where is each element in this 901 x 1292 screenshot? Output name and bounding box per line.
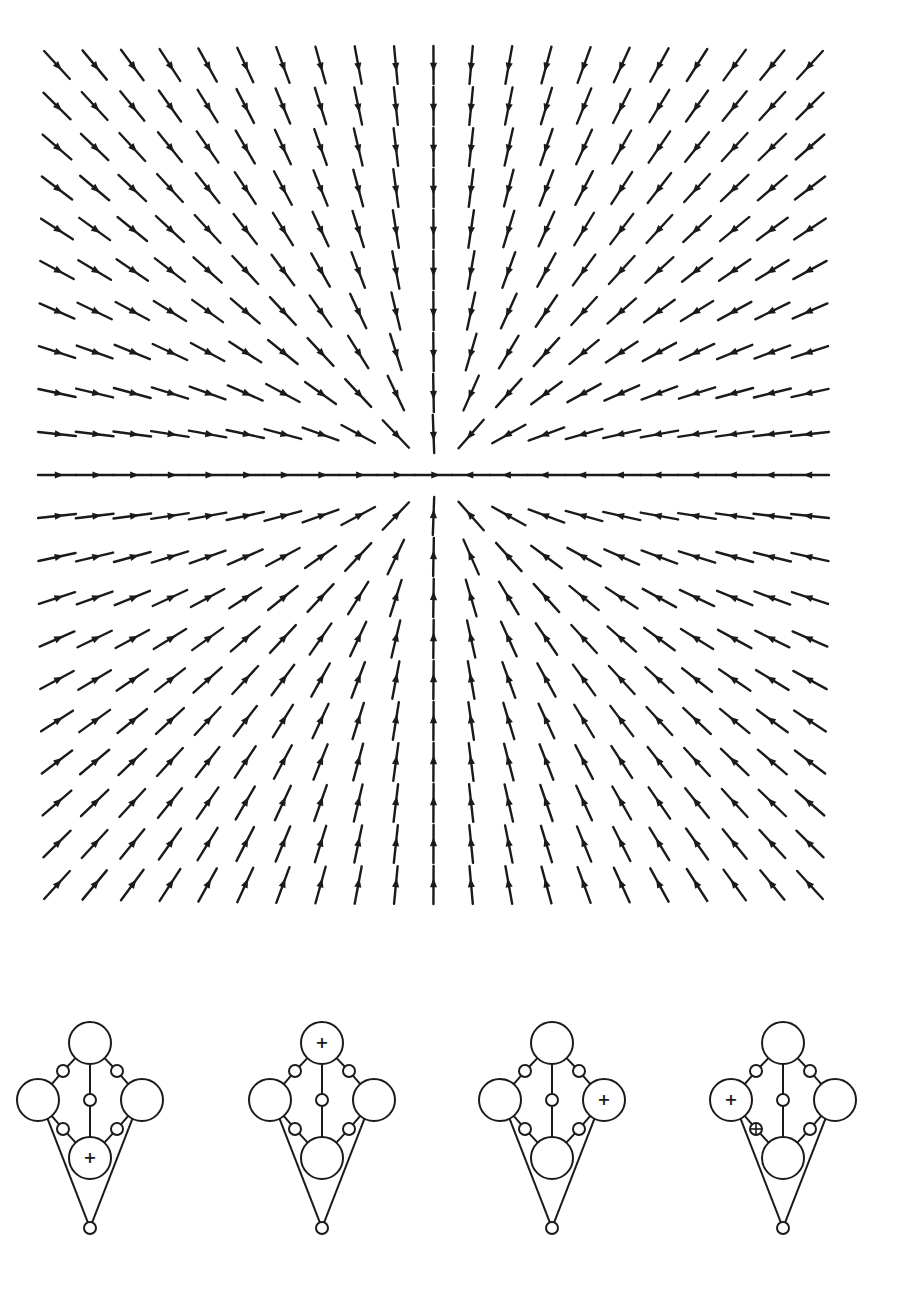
field-arrow: [574, 705, 594, 737]
arrowhead-icon: [354, 592, 362, 602]
node-center: [316, 1094, 328, 1106]
field-arrow: [759, 790, 786, 816]
field-arrow: [757, 710, 788, 732]
edge-line: [567, 1058, 575, 1067]
arrowhead-icon: [578, 389, 588, 396]
field-arrow: [116, 302, 149, 320]
field-arrow: [577, 88, 591, 123]
arrowhead-icon: [91, 595, 101, 602]
arrowhead-icon: [582, 838, 589, 848]
node-lower-right: [111, 1123, 123, 1135]
field-arrow: [43, 791, 72, 816]
field-arrow: [120, 829, 144, 858]
field-arrow: [576, 786, 592, 821]
field-arrow: [505, 866, 512, 903]
arrowhead-icon: [279, 184, 286, 194]
node-top: [531, 1022, 573, 1064]
arrowhead-icon: [581, 184, 588, 194]
field-arrow: [641, 513, 678, 520]
field-arrow: [113, 471, 151, 478]
field-arrow: [266, 548, 299, 566]
arrowhead-icon: [804, 266, 814, 273]
node-left: [249, 1079, 291, 1121]
field-arrow: [76, 471, 114, 478]
field-arrow: [650, 90, 670, 122]
field-arrow: [796, 831, 823, 858]
field-arrow: [678, 471, 716, 478]
field-arrow: [353, 211, 364, 247]
field-arrow: [352, 252, 365, 288]
arrowhead-icon: [91, 636, 101, 643]
field-arrow: [117, 259, 148, 280]
field-arrow: [760, 870, 784, 899]
node-upper-right: [111, 1065, 123, 1077]
arrowhead-icon: [54, 307, 64, 314]
field-arrow: [534, 584, 560, 612]
arrowhead-icon: [243, 471, 252, 478]
field-arrow: [156, 216, 184, 242]
field-arrow: [430, 128, 437, 166]
field-arrow: [275, 130, 291, 164]
arrowhead-icon: [279, 715, 287, 725]
field-arrow: [647, 215, 673, 243]
field-arrow: [684, 748, 710, 776]
field-arrow: [793, 303, 828, 318]
field-arrow: [44, 51, 70, 79]
field-arrow: [310, 295, 332, 326]
field-arrow: [496, 543, 521, 571]
field-arrow: [78, 260, 111, 280]
field-arrow: [571, 297, 597, 325]
field-arrow: [198, 90, 218, 122]
field-arrow: [797, 871, 823, 899]
field-arrow: [683, 708, 711, 734]
field-arrow: [567, 548, 600, 566]
field-arrow: [311, 253, 330, 286]
arrowhead-icon: [430, 550, 437, 559]
sink-vector-field: [38, 46, 829, 904]
field-arrow: [686, 91, 708, 122]
arrowhead-icon: [430, 63, 437, 72]
edge-line: [299, 1133, 308, 1142]
arrowhead-icon: [129, 348, 139, 355]
field-arrow: [391, 293, 400, 330]
edge-line: [67, 1133, 76, 1142]
field-arrow: [42, 751, 72, 774]
arrowhead-icon: [53, 225, 63, 233]
arrowhead-icon: [804, 225, 813, 233]
field-arrow: [430, 169, 437, 207]
field-arrow: [791, 389, 828, 397]
field-arrow: [430, 210, 437, 248]
arrowhead-icon: [203, 838, 211, 848]
field-arrow: [614, 48, 630, 83]
field-arrow: [566, 511, 603, 521]
field-arrow: [354, 46, 361, 83]
arrowhead-icon: [430, 391, 437, 400]
field-arrow: [305, 382, 336, 404]
arrowhead-icon: [241, 348, 251, 356]
field-arrow: [229, 588, 261, 609]
node-apex: [316, 1222, 328, 1234]
field-arrow: [505, 825, 513, 862]
arrowhead-icon: [241, 838, 248, 848]
field-arrow: [721, 175, 748, 201]
field-arrow: [504, 170, 513, 207]
field-arrow: [158, 132, 182, 162]
node-right: [814, 1079, 856, 1121]
arrowhead-icon: [691, 348, 701, 355]
arrowhead-icon: [394, 471, 403, 478]
field-arrow: [158, 788, 182, 818]
field-arrow: [606, 588, 638, 609]
field-arrow: [231, 627, 260, 652]
field-arrow: [38, 471, 76, 478]
field-arrow: [529, 509, 565, 522]
field-arrow: [642, 386, 678, 399]
field-arrow: [232, 256, 258, 284]
arrowhead-icon: [204, 554, 214, 561]
arrowhead-icon: [616, 348, 625, 356]
node-lower-right: [804, 1123, 816, 1135]
arrowhead-icon: [804, 717, 813, 725]
field-arrow: [115, 345, 150, 359]
field-arrow: [796, 93, 823, 120]
arrowhead-icon: [691, 554, 701, 561]
field-arrow: [40, 303, 75, 318]
